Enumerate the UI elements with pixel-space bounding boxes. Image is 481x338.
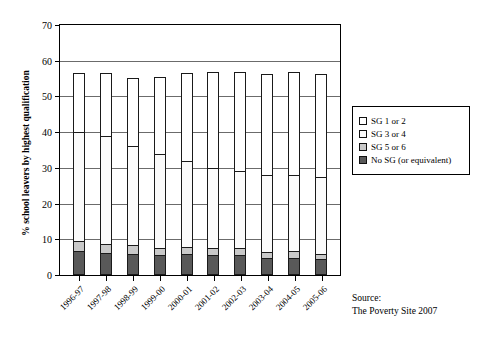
bar-segment (127, 146, 139, 246)
stacked-bar[interactable] (288, 69, 300, 275)
legend-item[interactable]: SG 3 or 4 (359, 129, 464, 139)
bar-slot (227, 25, 254, 275)
stacked-bar[interactable] (207, 69, 219, 275)
bar-segment (154, 77, 166, 155)
bar-slot (146, 25, 173, 275)
y-axis-tick-label: 10 (42, 234, 52, 245)
y-axis-tick-label: 60 (42, 55, 52, 66)
plot-area: 010203040506070 (59, 24, 341, 276)
bar-segment (315, 177, 327, 254)
source-line-1: Source: (352, 292, 437, 305)
stacked-bar[interactable] (315, 71, 327, 275)
chart-legend: SG 1 or 2SG 3 or 4SG 5 or 6No SG (or equ… (352, 106, 470, 175)
stacked-bar[interactable] (234, 69, 246, 275)
source-note: Source: The Poverty Site 2007 (352, 292, 437, 318)
bar-segment (100, 136, 112, 245)
legend-item-label: SG 5 or 6 (371, 142, 406, 152)
bar-segment (261, 74, 273, 176)
bar-segment (73, 73, 85, 134)
bar-slot (120, 25, 147, 275)
bar-segment (261, 258, 273, 275)
legend-swatch-icon (359, 156, 367, 164)
bar-segment (234, 171, 246, 250)
stacked-bar[interactable] (154, 74, 166, 275)
legend-item-label: SG 1 or 2 (371, 116, 406, 126)
stacked-bar[interactable] (127, 75, 139, 275)
bar-segment (261, 175, 273, 253)
legend-item[interactable]: SG 1 or 2 (359, 116, 464, 126)
stacked-bar-chart: % school leavers by highest qualificatio… (0, 0, 481, 338)
legend-swatch-icon (359, 143, 367, 151)
bar-segment (315, 259, 327, 275)
x-axis-tick-label: 1996-97 (57, 284, 85, 312)
y-axis-tick-label: 0 (47, 270, 52, 281)
bar-slot (66, 25, 93, 275)
bar-segment (181, 161, 193, 247)
bar-segment (127, 254, 139, 275)
stacked-bar[interactable] (181, 70, 193, 275)
bar-segment (127, 78, 139, 147)
bar-slot (173, 25, 200, 275)
legend-swatch-icon (359, 117, 367, 125)
source-line-2: The Poverty Site 2007 (352, 305, 437, 318)
bar-segment (288, 258, 300, 275)
bar-segment (154, 154, 166, 249)
bar-segment (234, 255, 246, 275)
y-axis-tick-label: 20 (42, 198, 52, 209)
legend-item[interactable]: No SG (or equivalent) (359, 155, 464, 165)
bar-segment (100, 73, 112, 137)
bar-segment (315, 74, 327, 179)
bar-segment (207, 72, 219, 169)
bar-slot (200, 25, 227, 275)
bar-segment (154, 255, 166, 275)
bar-segment (207, 168, 219, 249)
bars-container (60, 25, 340, 275)
stacked-bar[interactable] (261, 71, 273, 275)
y-axis-title: % school leavers by highest qualificatio… (21, 23, 31, 283)
bar-segment (181, 73, 193, 162)
bar-slot (93, 25, 120, 275)
x-axis-label-slot: 2005-06 (308, 282, 335, 332)
bar-slot (280, 25, 307, 275)
bar-slot (307, 25, 334, 275)
legend-swatch-icon (359, 130, 367, 138)
bar-segment (73, 251, 85, 275)
bar-segment (234, 72, 246, 172)
legend-item-label: No SG (or equivalent) (371, 155, 451, 165)
bar-segment (100, 253, 112, 275)
legend-item[interactable]: SG 5 or 6 (359, 142, 464, 152)
legend-item-label: SG 3 or 4 (371, 129, 406, 139)
stacked-bar[interactable] (73, 70, 85, 275)
bar-segment (181, 254, 193, 275)
stacked-bar[interactable] (100, 70, 112, 275)
y-axis-tick-label: 40 (42, 127, 52, 138)
x-axis-labels: 1996-971997-981998-991999-002000-012001-… (59, 282, 341, 332)
bar-segment (207, 255, 219, 275)
y-axis-tick-label: 50 (42, 91, 52, 102)
bar-segment (288, 72, 300, 176)
y-axis-tick-label: 30 (42, 162, 52, 173)
y-axis-tick-label: 70 (42, 20, 52, 31)
bar-slot (254, 25, 281, 275)
bar-segment (73, 132, 85, 242)
bar-segment (288, 175, 300, 252)
